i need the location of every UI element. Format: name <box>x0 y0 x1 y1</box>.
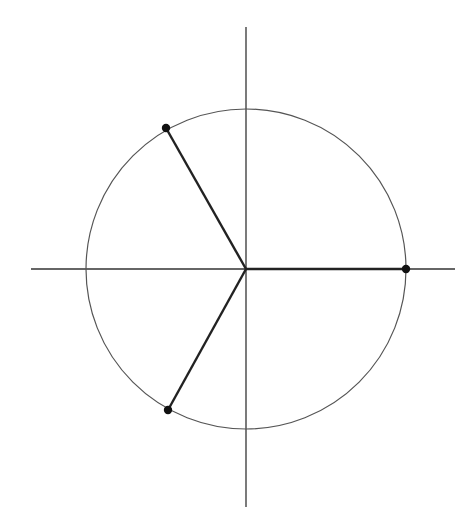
unit-circle-diagram <box>0 0 476 523</box>
radius-point-240deg <box>168 269 246 410</box>
radius-point-120deg <box>166 128 246 269</box>
point-0deg <box>402 265 410 273</box>
point-240deg <box>164 406 172 414</box>
point-120deg <box>162 124 170 132</box>
